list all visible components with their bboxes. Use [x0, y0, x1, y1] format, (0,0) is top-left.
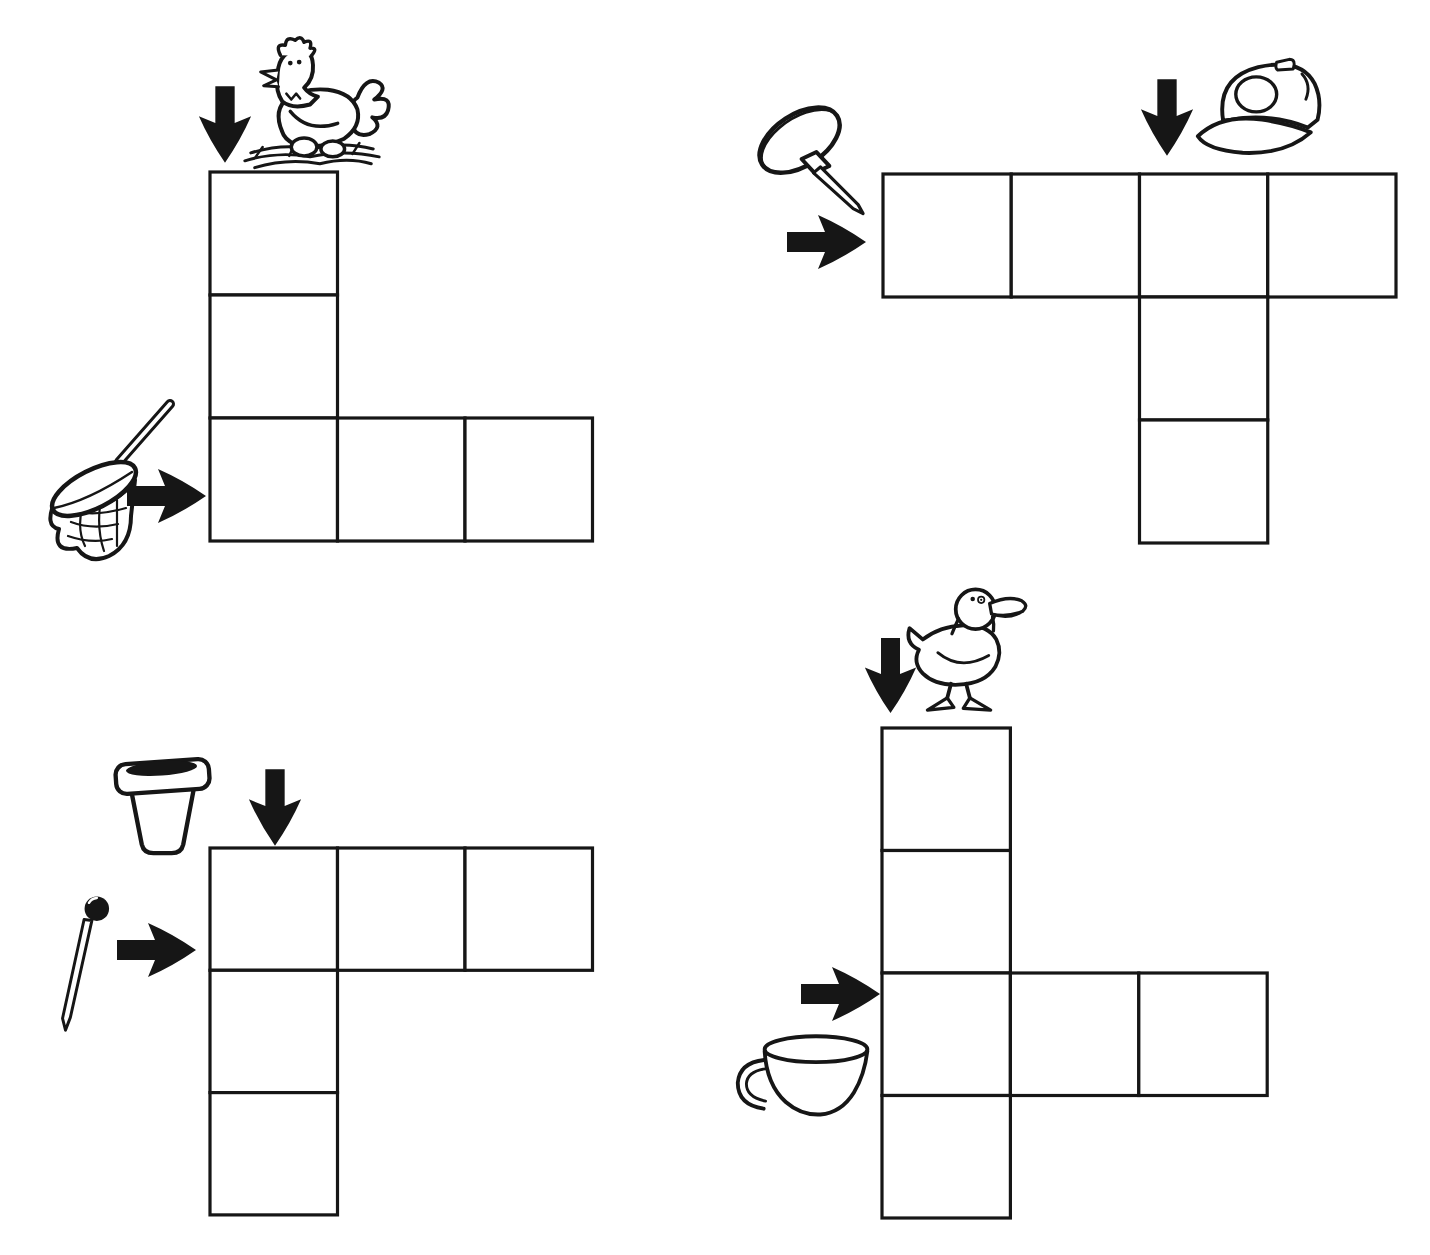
puzzle-pot-pin — [63, 758, 593, 1215]
puzzles-layer — [44, 38, 1396, 1218]
butterfly-net-icon — [44, 404, 170, 559]
answer-cell — [882, 728, 1010, 851]
answer-cell — [882, 1096, 1010, 1219]
worksheet-page — [0, 0, 1430, 1255]
puzzle-hen-net — [44, 38, 592, 559]
answer-cell — [210, 1093, 338, 1215]
answer-cell — [1140, 297, 1268, 420]
answer-cell — [883, 174, 1011, 297]
flower-pot-icon — [115, 758, 210, 853]
answer-cell — [210, 848, 338, 970]
answer-cell — [210, 418, 338, 541]
duck-icon — [908, 589, 1025, 710]
hen-icon — [245, 38, 389, 168]
answer-cell — [210, 970, 338, 1092]
answer-cell — [1011, 174, 1139, 297]
arrow-right-icon — [801, 967, 880, 1021]
sewing-pin-icon — [63, 896, 110, 1030]
answer-cell — [882, 973, 1010, 1096]
answer-cell — [210, 172, 338, 295]
teacup-icon — [738, 1036, 868, 1114]
answer-cell — [1139, 973, 1267, 1096]
arrow-down-icon — [865, 638, 916, 713]
answer-cell — [210, 295, 338, 418]
answer-cell — [882, 851, 1010, 974]
puzzle-tack-cap — [748, 59, 1396, 543]
answer-cell — [338, 418, 466, 541]
arrow-down-icon — [199, 86, 251, 162]
answer-cell — [1268, 174, 1396, 297]
arrow-down-icon — [1141, 79, 1193, 155]
answer-cell — [1010, 973, 1138, 1096]
arrow-down-icon — [249, 769, 301, 845]
baseball-cap-icon — [1198, 59, 1320, 153]
worksheet-canvas — [0, 0, 1430, 1255]
push-pin-icon — [748, 94, 863, 213]
arrow-right-icon — [117, 923, 196, 977]
answer-cell — [1140, 420, 1268, 543]
arrow-right-icon — [127, 469, 206, 523]
arrow-right-icon — [787, 215, 866, 269]
puzzle-duck-cup — [738, 589, 1267, 1218]
answer-cell — [465, 848, 593, 970]
answer-cell — [1140, 174, 1268, 297]
answer-cell — [338, 848, 466, 970]
answer-cell — [465, 418, 593, 541]
